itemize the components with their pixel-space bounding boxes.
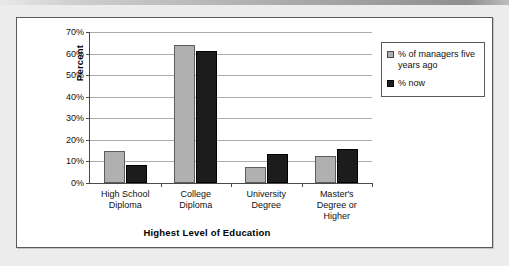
bar xyxy=(267,154,288,183)
y-tick-label: 70% xyxy=(66,27,84,37)
category-label: High SchoolDiploma xyxy=(90,189,161,211)
bars-layer xyxy=(90,32,372,183)
x-tick-mark xyxy=(372,183,373,187)
gray-swatch-icon xyxy=(387,51,394,58)
bar xyxy=(245,167,266,183)
category-label: UniversityDegree xyxy=(231,189,302,211)
category-label: CollegeDiploma xyxy=(161,189,232,211)
bar xyxy=(174,45,195,183)
x-tick-mark xyxy=(161,183,162,187)
legend-item-label: % now xyxy=(398,78,425,89)
category-label-line: College xyxy=(161,189,232,200)
legend-item: % now xyxy=(387,78,479,89)
y-tick-label: 20% xyxy=(66,135,84,145)
bar-group xyxy=(104,32,147,183)
category-label-line: Diploma xyxy=(90,200,161,211)
category-label-line: High School xyxy=(90,189,161,200)
bar xyxy=(126,165,147,183)
chart-frame: Percent 0%10%20%30%40%50%60%70% High Sch… xyxy=(16,17,493,248)
y-tick-label: 30% xyxy=(66,113,84,123)
bar xyxy=(315,156,336,183)
y-tick-label: 40% xyxy=(66,92,84,102)
y-tick-mark xyxy=(86,183,90,184)
category-label-line: Degree or xyxy=(302,200,373,211)
bar-group xyxy=(245,32,288,183)
bar-group xyxy=(315,32,358,183)
x-tick-mark xyxy=(302,183,303,187)
y-tick-label: 10% xyxy=(66,156,84,166)
bar xyxy=(196,51,217,183)
bar xyxy=(104,151,125,183)
x-tick-mark xyxy=(231,183,232,187)
category-label-line: Degree xyxy=(231,200,302,211)
plot-area: 0%10%20%30%40%50%60%70% High SchoolDiplo… xyxy=(89,32,372,184)
legend-item: % of managers five years ago xyxy=(387,49,479,71)
y-tick-label: 60% xyxy=(66,49,84,59)
category-label-line: Diploma xyxy=(161,200,232,211)
x-axis-title: Highest Level of Education xyxy=(57,227,357,238)
chart-legend: % of managers five years ago % now xyxy=(381,42,485,97)
category-label: Master'sDegree orHigher xyxy=(302,189,373,222)
bar-group xyxy=(174,32,217,183)
category-label-line: University xyxy=(231,189,302,200)
category-label-line: Master's xyxy=(302,189,373,200)
y-tick-label: 50% xyxy=(66,70,84,80)
y-tick-label: 0% xyxy=(71,178,84,188)
category-label-line: Higher xyxy=(302,211,373,222)
bar xyxy=(337,149,358,184)
legend-item-label: % of managers five years ago xyxy=(398,49,479,71)
black-swatch-icon xyxy=(387,80,394,87)
